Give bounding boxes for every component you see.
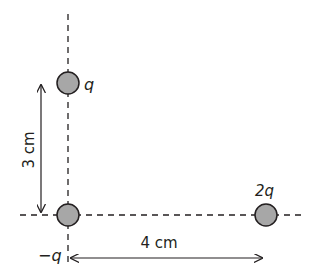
vertical-dimension-label: 3 cm	[20, 131, 38, 168]
charge-minus-q-label: −q	[38, 246, 62, 265]
charge-minus-q-circle	[57, 204, 79, 226]
horizontal-dimension-label: 4 cm	[140, 234, 177, 252]
charge-2q-label: 2q	[255, 182, 274, 200]
charge-q-label: q	[84, 75, 94, 94]
charge-2q-circle	[255, 204, 277, 226]
diagram-svg: 3 cm 4 cm q −q 2q	[0, 0, 317, 269]
charge-diagram: 3 cm 4 cm q −q 2q	[0, 0, 317, 269]
charge-q-circle	[57, 72, 79, 94]
